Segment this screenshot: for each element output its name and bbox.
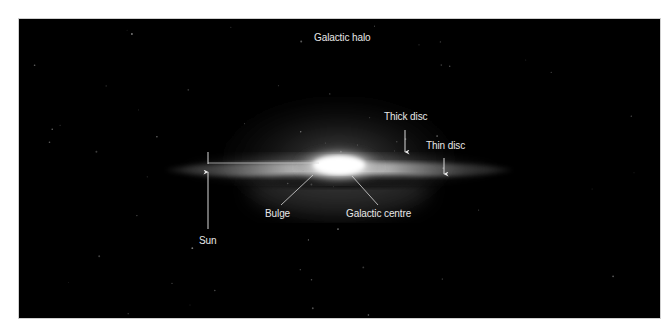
star — [171, 283, 172, 284]
star — [287, 183, 289, 185]
star — [449, 65, 450, 66]
star — [60, 125, 61, 126]
star — [138, 109, 139, 110]
star — [396, 141, 397, 142]
star — [136, 215, 137, 216]
star — [156, 136, 158, 138]
star — [551, 72, 552, 73]
galaxy-figure-panel: Galactic halo Thick disc Thin disc Bulge… — [19, 19, 660, 318]
star — [49, 141, 51, 143]
thick-disc-label: Thick disc — [384, 111, 427, 122]
star — [440, 64, 442, 66]
star — [418, 44, 419, 45]
star — [634, 172, 635, 173]
star — [442, 278, 443, 279]
bulge-label: Bulge — [265, 208, 290, 219]
star — [436, 135, 438, 137]
star — [34, 64, 36, 66]
star — [311, 279, 313, 281]
sun-label: Sun — [199, 235, 217, 246]
star — [127, 30, 128, 31]
star — [374, 26, 375, 27]
star — [362, 266, 364, 268]
star — [278, 85, 279, 86]
star — [369, 117, 370, 118]
star — [337, 228, 339, 230]
star — [440, 41, 441, 42]
star — [214, 290, 216, 292]
galactic-halo-label: Galactic halo — [314, 32, 371, 43]
star — [147, 176, 148, 177]
star — [190, 305, 191, 306]
star — [128, 313, 129, 314]
star — [300, 131, 301, 132]
star — [368, 314, 370, 316]
star — [325, 143, 326, 144]
star — [357, 145, 358, 146]
bulge-core — [313, 156, 365, 174]
galactic-centre-label: Galactic centre — [346, 208, 411, 219]
star — [187, 89, 189, 91]
star — [333, 186, 334, 187]
star — [394, 150, 395, 151]
star — [300, 41, 302, 43]
star — [308, 239, 309, 240]
star — [98, 255, 100, 257]
star — [329, 93, 330, 94]
star — [612, 275, 614, 277]
star — [131, 33, 133, 35]
star — [310, 184, 312, 186]
star — [592, 189, 593, 190]
star — [300, 269, 301, 270]
star — [303, 170, 304, 171]
star — [244, 123, 245, 124]
star — [191, 247, 193, 249]
star — [478, 210, 479, 211]
thin-disc-label: Thin disc — [426, 140, 465, 151]
star — [631, 116, 632, 117]
star — [525, 59, 526, 60]
star — [68, 282, 69, 283]
star — [340, 151, 342, 153]
star — [106, 85, 107, 86]
galaxy-edge-on-image — [19, 19, 660, 318]
star — [312, 307, 314, 309]
star — [52, 129, 53, 130]
star — [230, 27, 231, 28]
star — [95, 151, 97, 153]
